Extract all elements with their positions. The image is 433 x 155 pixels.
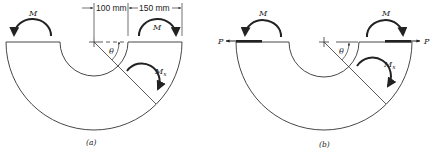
curved-beam-diagram: θ 100 mm 150 mm M M Mx (a) (0, 0, 433, 155)
force-label-left-b: P (217, 37, 224, 46)
beam-outline-a (6, 42, 182, 130)
figure-b: θ P M P M Mx (b) (217, 9, 430, 149)
moment-label-left-b: M (258, 9, 268, 18)
dimension-thickness: 150 mm (139, 3, 170, 13)
angle-label-a: θ (109, 47, 114, 56)
force-label-right-b: P (423, 37, 430, 46)
angle-label-b: θ (339, 47, 344, 56)
moment-arrow-left-a (14, 19, 51, 36)
moment-arrow-left-b (245, 20, 281, 37)
section-line-a (94, 42, 156, 104)
dimension-inner-radius: 100 mm (96, 3, 127, 13)
moment-label-right-a: M (152, 23, 162, 32)
figure-a: θ 100 mm 150 mm M M Mx (a) (6, 3, 182, 147)
caption-a: (a) (86, 138, 96, 147)
beam-outline-b (236, 42, 412, 130)
moment-label-left-a: M (28, 9, 38, 18)
load-plate-right-b (385, 40, 411, 43)
moment-label-right-b: M (381, 9, 391, 18)
load-plate-left-b (236, 40, 262, 43)
moment-arrow-right-b (367, 20, 403, 37)
caption-b: (b) (319, 140, 330, 149)
section-line-b (324, 42, 386, 104)
section-moment-label-a: Mx (154, 67, 167, 77)
section-moment-label-b: Mx (383, 60, 396, 70)
